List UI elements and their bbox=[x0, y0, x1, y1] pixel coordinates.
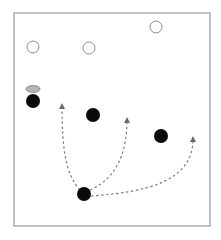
diagram-canvas bbox=[0, 0, 221, 240]
black-dot-middle bbox=[86, 108, 100, 122]
ellipse-group bbox=[26, 86, 40, 93]
arrow-to-middle bbox=[90, 120, 127, 190]
arrow-to-left bbox=[62, 106, 80, 190]
gray-ellipse bbox=[26, 86, 40, 93]
black-dot-right bbox=[154, 129, 168, 143]
black-dot-left bbox=[26, 94, 40, 108]
open-circle-2 bbox=[83, 42, 95, 54]
filled-dots-group bbox=[26, 94, 168, 201]
arrow-to-right bbox=[91, 139, 193, 196]
arrows-group bbox=[62, 106, 193, 196]
open-circle-3 bbox=[150, 21, 162, 33]
open-circle-1 bbox=[27, 41, 39, 53]
open-circles-group bbox=[27, 21, 162, 54]
black-dot-origin bbox=[77, 187, 91, 201]
